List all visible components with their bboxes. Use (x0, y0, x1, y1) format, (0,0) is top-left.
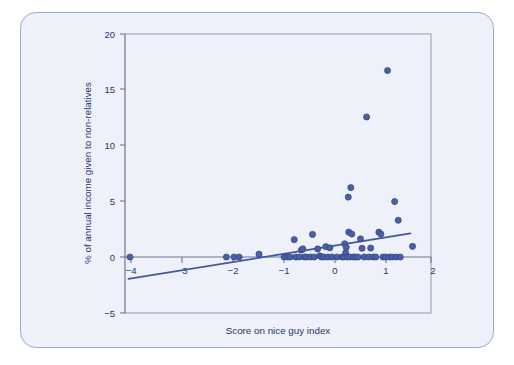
y-tick-marks (120, 34, 125, 313)
x-tick-label-minus1: −1 (279, 265, 290, 276)
data-point (409, 243, 415, 249)
y-tick-label-minus5: −5 (104, 308, 115, 319)
data-point (236, 254, 242, 260)
figure-card: 20 15 10 5 0 −5 −4 −3 −2 −1 (20, 12, 494, 348)
data-point (359, 245, 365, 251)
data-point (384, 67, 390, 73)
data-point (287, 254, 293, 260)
data-point (127, 254, 133, 260)
y-tick-label-10: 10 (104, 140, 115, 151)
x-tick-label-minus2: −2 (228, 265, 239, 276)
data-point (309, 231, 315, 237)
data-point (392, 198, 398, 204)
data-point (368, 245, 374, 251)
data-point (397, 254, 403, 260)
data-point (355, 254, 361, 260)
data-point (327, 245, 333, 251)
data-point (348, 184, 354, 190)
data-point (373, 254, 379, 260)
x-tick-label-minus4: −4 (126, 265, 137, 276)
scatter-plot: 20 15 10 5 0 −5 −4 −3 −2 −1 (21, 13, 495, 349)
x-tick-label-0: 0 (332, 265, 337, 276)
y-tick-label-0: 0 (110, 252, 115, 263)
data-point (349, 231, 355, 237)
x-tick-labels: −4 −3 −2 −1 0 1 2 (126, 265, 436, 276)
y-axis-title: % of annual income given to non-relative… (82, 82, 93, 264)
data-point (364, 114, 370, 120)
data-point (311, 254, 317, 260)
data-point (378, 231, 384, 237)
data-point (223, 254, 229, 260)
x-tick-label-1: 1 (383, 265, 388, 276)
figure-root: 20 15 10 5 0 −5 −4 −3 −2 −1 (0, 0, 514, 365)
data-point (357, 236, 363, 242)
data-point (343, 244, 349, 250)
y-tick-label-20: 20 (104, 29, 115, 40)
x-tick-label-2: 2 (430, 265, 435, 276)
data-point (300, 246, 306, 252)
y-tick-labels: 20 15 10 5 0 −5 (104, 29, 115, 319)
x-axis-title: Score on nice guy index (226, 325, 331, 336)
data-point (345, 194, 351, 200)
y-tick-label-5: 5 (110, 196, 115, 207)
data-point (256, 251, 262, 257)
data-points-layer (127, 67, 416, 260)
data-point (291, 237, 297, 243)
y-tick-label-15: 15 (104, 84, 115, 95)
data-point (395, 217, 401, 223)
data-point (315, 246, 321, 252)
